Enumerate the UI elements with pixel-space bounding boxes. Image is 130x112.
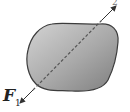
force-label-f1: F1 xyxy=(3,85,21,108)
force-label-f1-name: F xyxy=(3,85,15,105)
force-label-f1-subscript: 1 xyxy=(15,98,21,108)
force-label-f2-subscript: 2 xyxy=(112,0,118,7)
force-label-f2: 2 xyxy=(112,0,118,7)
force-arrow-f2 xyxy=(102,6,116,20)
rigid-body xyxy=(27,23,118,91)
force-arrow-f1 xyxy=(20,90,33,103)
